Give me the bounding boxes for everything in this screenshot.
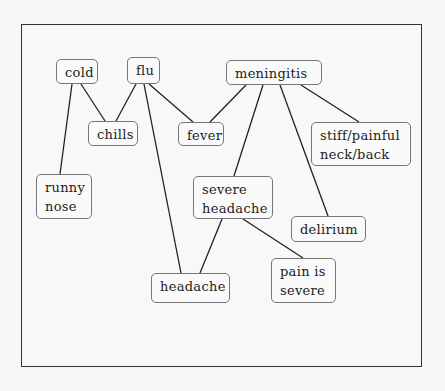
edge-severe_headache-headache	[200, 219, 222, 273]
node-runny_nose: runny nose	[36, 174, 92, 219]
edge-flu-chills	[116, 84, 136, 121]
edge-cold-chills	[81, 84, 105, 121]
node-stiff: stiff/painful neck/back	[311, 122, 411, 166]
node-pain_severe: pain is severe	[271, 258, 336, 303]
edge-meningitis-fever	[210, 85, 246, 122]
node-cold: cold	[56, 59, 98, 84]
edge-flu-fever	[149, 84, 193, 122]
edge-meningitis-severe_headache	[234, 85, 263, 176]
node-meningitis: meningitis	[226, 60, 322, 85]
node-flu: flu	[127, 57, 160, 84]
edge-meningitis-stiff	[301, 85, 359, 122]
node-fever: fever	[178, 122, 224, 146]
edge-flu-headache	[144, 84, 181, 273]
edge-cold-runny_nose	[60, 84, 72, 174]
node-severe_headache: severe headache	[193, 176, 273, 219]
node-chills: chills	[88, 121, 138, 146]
node-headache: headache	[151, 273, 230, 303]
node-delirium: delirium	[291, 216, 366, 242]
